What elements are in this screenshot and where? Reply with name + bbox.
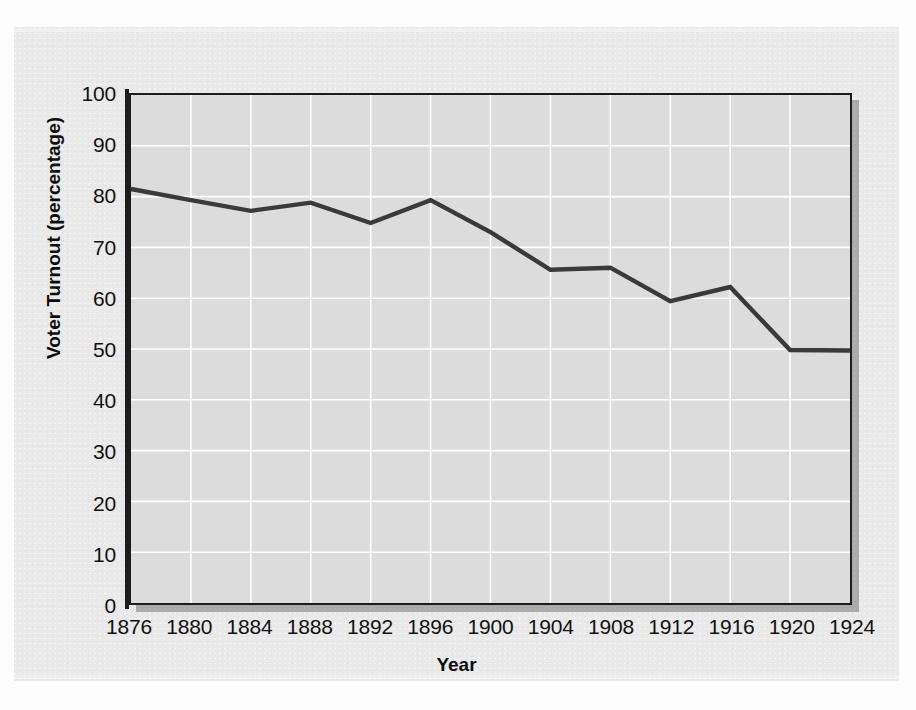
x-tick-label: 1900 [468, 616, 514, 637]
x-axis-tick-labels: 1876188018841888189218961900190419081912… [14, 616, 899, 646]
y-tick-label: 0 [64, 595, 116, 616]
y-tick-label: 50 [64, 339, 116, 360]
x-tick-label: 1912 [648, 616, 694, 637]
chart-page: { "chart_data": { "type": "line", "title… [0, 0, 916, 710]
y-tick-label: 20 [64, 492, 116, 513]
x-tick-label: 1920 [769, 616, 815, 637]
y-tick-label: 90 [64, 134, 116, 155]
x-tick-label: 1880 [166, 616, 212, 637]
y-tick-label: 10 [64, 543, 116, 564]
y-tick-label: 30 [64, 441, 116, 462]
x-tick-label: 1924 [829, 616, 875, 637]
y-tick-label: 100 [64, 83, 116, 104]
data-series-line [131, 95, 850, 603]
x-tick-label: 1884 [227, 616, 273, 637]
x-tick-label: 1892 [347, 616, 393, 637]
figure-panel: Voter Turnout (percentage) 0102030405060… [14, 27, 899, 681]
x-tick-label: 1876 [106, 616, 152, 637]
x-tick-label: 1916 [709, 616, 755, 637]
x-tick-label: 1908 [588, 616, 634, 637]
x-tick-label: 1888 [287, 616, 333, 637]
x-tick-label: 1904 [528, 616, 574, 637]
y-tick-label: 60 [64, 287, 116, 308]
plot-area [129, 93, 852, 605]
y-tick-label: 80 [64, 185, 116, 206]
scan-artifact-top [14, 29, 899, 32]
voter-turnout-line [131, 189, 850, 351]
x-axis-title: Year [14, 654, 899, 676]
y-axis-tick-labels: 0102030405060708090100 [54, 27, 116, 681]
y-tick-label: 70 [64, 236, 116, 257]
x-tick-label: 1896 [407, 616, 453, 637]
y-tick-label: 40 [64, 390, 116, 411]
